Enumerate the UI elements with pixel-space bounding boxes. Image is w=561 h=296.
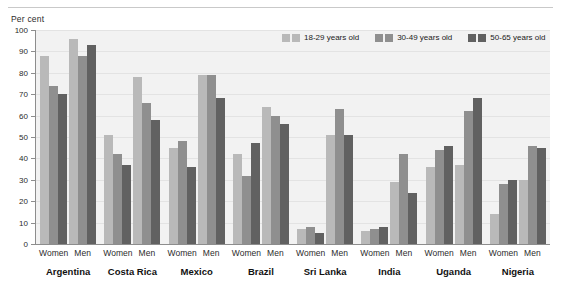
bar: [408, 193, 417, 244]
bar-subgroup: [69, 30, 96, 244]
legend-swatch: [385, 34, 393, 42]
bar-subgroup: [390, 30, 417, 244]
legend-item: 30-49 years old: [375, 33, 452, 42]
bar: [464, 111, 473, 244]
bar: [490, 214, 499, 244]
x-axis-group-label: Brazil: [248, 266, 274, 277]
bar: [473, 98, 482, 244]
bar: [271, 116, 280, 244]
chart-legend: 18-29 years old30-49 years old50-65 year…: [282, 33, 545, 42]
x-axis-sublabel: Men: [460, 248, 477, 258]
bar: [499, 184, 508, 244]
bars-layer: [36, 30, 550, 244]
y-axis-tick: [31, 73, 35, 74]
bar: [379, 227, 388, 244]
bar: [280, 124, 289, 244]
plot-area: [36, 30, 550, 244]
y-axis-tick: [31, 201, 35, 202]
bar: [315, 233, 324, 244]
bar-subgroup: [297, 30, 324, 244]
bar: [233, 154, 242, 244]
bar: [390, 182, 399, 244]
bar-subgroup: [326, 30, 353, 244]
bar: [178, 141, 187, 244]
x-axis-sublabel: Men: [524, 248, 541, 258]
bar: [426, 167, 435, 244]
legend-item: 50-65 years old: [468, 33, 545, 42]
x-axis-group-label: Costa Rica: [108, 266, 157, 277]
x-axis-sublabel: Men: [203, 248, 220, 258]
bar: [528, 146, 537, 244]
y-axis-tick-label: 40: [2, 154, 28, 163]
bar: [344, 135, 353, 244]
y-axis-tick: [31, 51, 35, 52]
x-axis-sublabel: Women: [232, 248, 261, 258]
legend-swatch: [375, 34, 383, 42]
legend-label: 18-29 years old: [304, 33, 359, 42]
y-axis-tick: [31, 180, 35, 181]
y-axis-labels: 0102030405060708090100: [0, 30, 28, 245]
x-axis-sublabel: Women: [103, 248, 132, 258]
bar: [169, 148, 178, 244]
bar: [262, 107, 271, 244]
legend-swatch: [468, 34, 476, 42]
y-axis-tick-label: 60: [2, 111, 28, 120]
x-axis-sublabel: Women: [168, 248, 197, 258]
x-axis-sublabel: Women: [489, 248, 518, 258]
bar: [122, 165, 131, 244]
bar: [399, 154, 408, 244]
bar: [335, 109, 344, 244]
bar: [69, 39, 78, 244]
bar-subgroup: [198, 30, 225, 244]
y-axis-tick-label: 0: [2, 240, 28, 249]
legend-label: 50-65 years old: [490, 33, 545, 42]
legend-label: 30-49 years old: [397, 33, 452, 42]
bar: [519, 180, 528, 244]
y-axis-tick: [31, 244, 35, 245]
bar: [78, 56, 87, 244]
x-axis-group-label: Mexico: [181, 266, 213, 277]
legend-swatch: [282, 34, 290, 42]
x-axis-sublabel: Women: [425, 248, 454, 258]
y-axis-tick: [31, 223, 35, 224]
y-axis-unit-label: Per cent: [11, 14, 44, 24]
bar: [297, 229, 306, 244]
y-axis-tick-label: 30: [2, 175, 28, 184]
bar-subgroup: [262, 30, 289, 244]
bar: [251, 143, 260, 244]
y-axis-tick-label: 100: [2, 26, 28, 35]
legend-swatch-group: [468, 34, 486, 42]
y-axis-line: [35, 30, 36, 245]
bar: [58, 94, 67, 244]
bar: [198, 75, 207, 244]
legend-swatch: [292, 34, 300, 42]
x-axis-group-label: Uganda: [436, 266, 471, 277]
x-axis-sublabel: Men: [74, 248, 91, 258]
x-axis-sublabel: Men: [267, 248, 284, 258]
bar-subgroup: [490, 30, 517, 244]
y-axis-tick-label: 90: [2, 47, 28, 56]
bar: [187, 167, 196, 244]
y-axis-tick-label: 80: [2, 68, 28, 77]
y-axis-tick-label: 50: [2, 133, 28, 142]
bar: [87, 45, 96, 244]
x-axis-group-label: India: [378, 266, 400, 277]
x-axis-sublabel: Women: [360, 248, 389, 258]
bar: [151, 120, 160, 244]
y-axis-tick: [31, 30, 35, 31]
y-axis-tick: [31, 94, 35, 95]
bar-subgroup: [104, 30, 131, 244]
y-axis-tick: [31, 158, 35, 159]
bar: [508, 180, 517, 244]
x-axis-group-label: Nigeria: [502, 266, 534, 277]
bar-subgroup: [455, 30, 482, 244]
bar: [444, 146, 453, 244]
bar: [370, 229, 379, 244]
bar: [435, 150, 444, 244]
bar-subgroup: [133, 30, 160, 244]
x-axis-sublabel: Men: [396, 248, 413, 258]
bar: [361, 231, 370, 244]
bar-subgroup: [426, 30, 453, 244]
legend-swatch: [478, 34, 486, 42]
bar-subgroup: [169, 30, 196, 244]
